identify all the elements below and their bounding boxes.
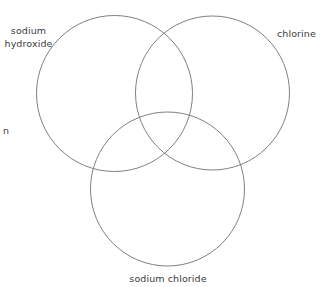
venn-label-sodium-hydroxide-line1: sodium (11, 25, 46, 36)
venn-label-sodium-chloride: sodium chloride (98, 272, 238, 285)
venn-label-sodium-hydroxide: sodiumhydroxide (0, 24, 57, 50)
clipped-text-fragment: n (0, 124, 9, 137)
venn-circle-chlorine (136, 16, 290, 170)
venn-circle-sodium-hydroxide (37, 16, 193, 172)
venn-label-sodium-hydroxide-line2: hydroxide (5, 38, 53, 49)
venn-label-chlorine: chlorine (277, 27, 316, 40)
venn-circle-sodium-chloride (91, 112, 245, 266)
venn-diagram: sodiumhydroxide chlorine sodium chloride… (0, 0, 326, 287)
